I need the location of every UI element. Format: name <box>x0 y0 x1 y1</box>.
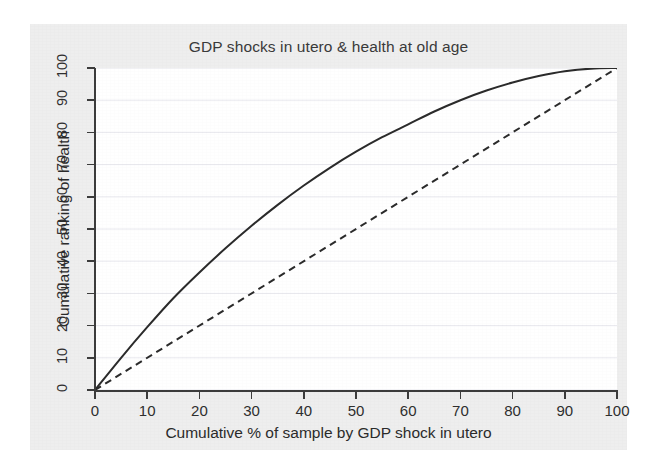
x-tick-mark <box>407 391 409 399</box>
y-tick-mark <box>87 132 95 134</box>
x-axis-title: Cumulative % of sample by GDP shock in u… <box>30 424 627 442</box>
y-axis-title: Cumulative ranking of health <box>55 109 73 349</box>
y-tick-mark <box>87 357 95 359</box>
x-tick-label: 10 <box>125 402 169 419</box>
x-tick-mark <box>146 391 148 399</box>
x-tick-label: 90 <box>543 402 587 419</box>
y-tick-mark <box>87 99 95 101</box>
y-tick-mark <box>87 260 95 262</box>
figure-inner: GDP shocks in utero & health at old age … <box>30 24 627 450</box>
y-tick-label: 100 <box>54 46 70 86</box>
x-tick-label: 100 <box>595 402 639 419</box>
x-tick-mark <box>564 391 566 399</box>
x-tick-label: 40 <box>282 402 326 419</box>
y-tick-mark <box>87 164 95 166</box>
x-tick-mark <box>303 391 305 399</box>
x-tick-mark <box>512 391 514 399</box>
x-tick-mark <box>355 391 357 399</box>
x-tick-mark <box>616 391 618 399</box>
x-tick-mark <box>94 391 96 399</box>
x-tick-label: 20 <box>177 402 221 419</box>
y-tick-mark <box>87 325 95 327</box>
y-tick-mark <box>87 196 95 198</box>
x-tick-mark <box>460 391 462 399</box>
chart-title: GDP shocks in utero & health at old age <box>30 38 627 56</box>
chart-figure: GDP shocks in utero & health at old age … <box>30 24 627 450</box>
y-tick-mark <box>87 67 95 69</box>
plot-area-svg <box>95 68 617 390</box>
y-tick-mark <box>87 228 95 230</box>
x-tick-label: 50 <box>334 402 378 419</box>
x-tick-mark <box>199 391 201 399</box>
x-tick-label: 70 <box>438 402 482 419</box>
x-tick-label: 0 <box>73 402 117 419</box>
x-tick-label: 80 <box>491 402 535 419</box>
plot-panel <box>95 68 617 390</box>
y-tick-mark <box>87 293 95 295</box>
x-tick-label: 60 <box>386 402 430 419</box>
x-tick-mark <box>251 391 253 399</box>
x-tick-label: 30 <box>230 402 274 419</box>
